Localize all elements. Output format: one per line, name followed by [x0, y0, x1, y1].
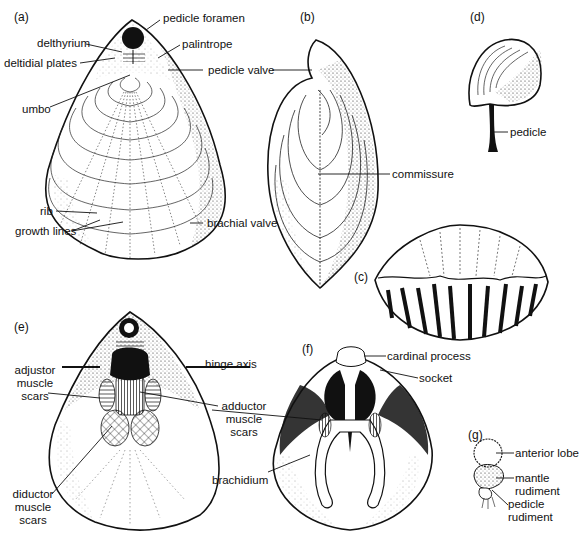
label-deltidial-plates: deltidial plates [4, 57, 77, 70]
label-brachidium: brachidium [212, 474, 268, 487]
label-diductor-muscle-scars: diductor muscle scars [8, 488, 58, 527]
panel-tag-f: (f) [302, 342, 313, 356]
label-brachial-valve: brachial valve [207, 217, 277, 230]
label-rib: rib [40, 205, 53, 218]
panel-tag-c: (c) [354, 270, 368, 284]
panel-tag-g: (g) [468, 428, 483, 442]
panel-tag-e: (e) [14, 320, 29, 334]
panel-tag-b: (b) [300, 10, 315, 24]
label-anterior-lobe: anterior lobe [515, 447, 579, 460]
label-mantle-rudiment: mantle rudiment [515, 472, 560, 498]
label-palintrope: palintrope [182, 38, 233, 51]
label-commissure: commissure [392, 168, 454, 181]
panel-g-larva [474, 439, 504, 509]
panel-tag-a: (a) [14, 10, 29, 24]
label-pedicle-valve: pedicle valve [208, 64, 274, 77]
label-cardinal-process: cardinal process [387, 350, 471, 363]
panel-e-shell [49, 312, 219, 530]
label-adductor-muscle-scars: adductor muscle scars [216, 400, 272, 439]
label-pedicle-rudiment: pedicle rudiment [508, 498, 553, 524]
label-hinge-axis: hinge axis [205, 358, 257, 371]
label-pedicle-foramen: pedicle foramen [163, 12, 245, 25]
panel-b-shell [268, 40, 378, 288]
panel-c-shell [375, 225, 548, 340]
brachiopod-anatomy-illustration [0, 0, 585, 540]
label-delthyrium: delthyrium [37, 37, 90, 50]
panel-f-shell [273, 347, 432, 530]
panel-tag-d: (d) [470, 10, 485, 24]
label-socket: socket [419, 372, 452, 385]
label-growth-lines: growth lines [15, 225, 76, 238]
label-adjustor-muscle-scars: adjustor muscle scars [10, 364, 60, 403]
label-umbo: umbo [22, 103, 51, 116]
label-pedicle: pedicle [510, 126, 546, 139]
